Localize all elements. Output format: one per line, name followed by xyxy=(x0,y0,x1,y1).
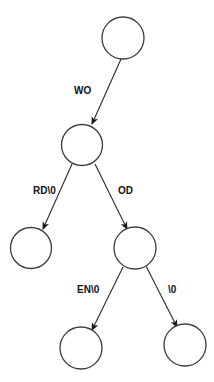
edge-label: RD\0 xyxy=(33,185,56,196)
edge-label: EN\0 xyxy=(77,284,100,295)
edge-n3-n5 xyxy=(146,266,177,327)
tree-diagram: WORD\0ODEN\0\0 xyxy=(0,0,214,382)
tree-node-n2 xyxy=(11,228,52,269)
edge-n1-n3 xyxy=(95,164,127,229)
edge-label: \0 xyxy=(168,284,177,295)
tree-node-n0 xyxy=(102,17,144,59)
tree-node-n5 xyxy=(164,324,206,366)
tree-node-n3 xyxy=(114,227,156,269)
tree-node-n4 xyxy=(60,327,102,369)
edge-n1-n2 xyxy=(43,164,72,229)
edge-n0-n1 xyxy=(92,59,121,124)
tree-node-n1 xyxy=(62,125,103,166)
edge-label: WO xyxy=(74,85,91,96)
edge-label: OD xyxy=(118,185,133,196)
edges-layer xyxy=(43,59,177,330)
labels-layer: WORD\0ODEN\0\0 xyxy=(33,85,177,295)
edge-n3-n4 xyxy=(92,267,123,330)
